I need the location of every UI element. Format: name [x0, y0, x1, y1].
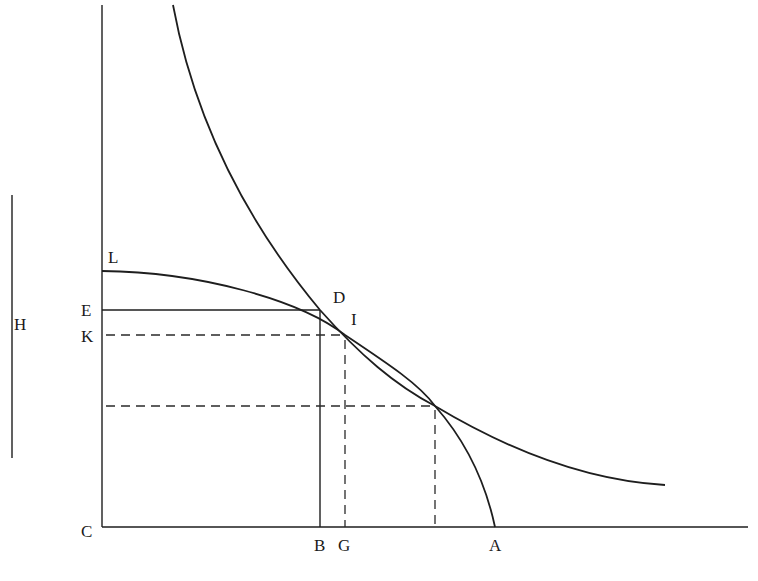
label-i: I: [351, 310, 357, 329]
label-e: E: [81, 301, 91, 320]
label-k: K: [81, 327, 94, 346]
label-c: C: [81, 522, 92, 541]
label-l: L: [108, 248, 118, 267]
label-g: G: [338, 536, 350, 555]
label-a: A: [489, 536, 502, 555]
label-d: D: [333, 288, 345, 307]
curve-hyperbola: [173, 5, 665, 485]
label-h: H: [14, 315, 26, 334]
geometric-diagram: H L E K C B G A D I: [0, 0, 758, 581]
label-b: B: [314, 536, 325, 555]
